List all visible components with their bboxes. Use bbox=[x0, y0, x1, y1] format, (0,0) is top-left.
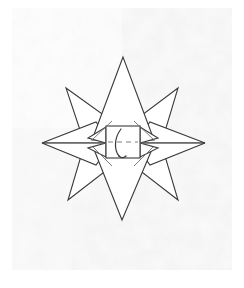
drawing-canvas: Eight-pointed origami star diagram line-… bbox=[0, 0, 244, 288]
star-figure bbox=[0, 0, 244, 288]
star-points-group bbox=[42, 57, 205, 220]
